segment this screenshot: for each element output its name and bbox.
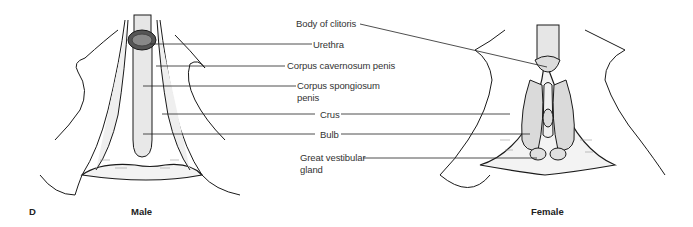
label-crus: Crus <box>320 109 340 121</box>
label-corpus-spongiosum-line2: penis <box>297 92 319 103</box>
label-great-vestibular-line2: gland <box>300 164 323 175</box>
label-great-vestibular-gland: Great vestibular gland <box>300 152 365 176</box>
label-corpus-cavernosum: Corpus cavernosum penis <box>287 60 395 72</box>
anatomy-illustration <box>0 0 693 227</box>
label-great-vestibular-line1: Great vestibular <box>300 152 365 163</box>
label-urethra: Urethra <box>313 39 344 51</box>
panel-letter: D <box>29 206 36 217</box>
label-corpus-spongiosum-line1: Corpus spongiosum <box>297 80 380 91</box>
label-body-of-clitoris: Body of clitoris <box>296 18 356 30</box>
caption-female: Female <box>531 206 564 217</box>
caption-male: Male <box>131 206 152 217</box>
label-bulb: Bulb <box>320 129 339 141</box>
label-corpus-spongiosum: Corpus spongiosum penis <box>297 80 380 104</box>
